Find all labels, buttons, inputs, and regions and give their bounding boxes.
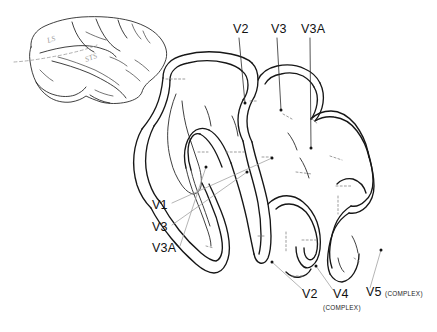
sulcus-label-ls: LS [45,34,57,46]
leader-v4-bottom [316,266,333,290]
leader-lines [172,38,383,290]
brain-inset: LS STS [14,17,167,104]
left-label-group: V1 V3 V3A [152,198,177,255]
areal-boundaries [166,79,360,276]
label-v1-left: V1 [152,198,168,212]
label-v2-top: V2 [233,22,249,36]
label-v5-complex: (COMPLEX) [385,290,423,298]
visual-cortex-figure: LS STS [0,0,437,332]
label-v5-bottom: V5 [366,285,382,299]
sulcus-label-sts: STS [84,51,99,64]
label-v2-bottom: V2 [302,287,318,301]
leader-dot-v1-left [271,157,274,160]
top-label-group: V2 V3 V3A [233,22,326,36]
leader-dot-v5-bottom [380,249,383,252]
leader-v5-bottom [370,250,381,288]
leader-v2-top [239,38,245,103]
leader-dot-v3a-left [205,166,208,169]
bottom-label-group: V2 V4 (COMPLEX) V5 (COMPLEX) [302,285,423,312]
label-v3a-top: V3A [301,22,326,36]
leader-v3a-top [310,38,311,148]
leader-dot-v2-bottom [271,261,274,264]
label-v3a-left: V3A [152,241,177,255]
leader-dot-v4-bottom [315,265,318,268]
leader-dot-v2-top [244,102,247,105]
leader-v3-left [172,172,247,225]
label-v4-bottom: V4 [333,287,349,301]
figure-root: LS STS [0,0,437,332]
label-v4-complex: (COMPLEX) [323,304,361,312]
label-v3-top: V3 [271,22,287,36]
label-v3-left: V3 [152,220,168,234]
leader-dot-v3a-top [310,147,313,150]
leader-dot-v3-top [280,109,283,112]
leader-dot-v3-left [246,171,249,174]
